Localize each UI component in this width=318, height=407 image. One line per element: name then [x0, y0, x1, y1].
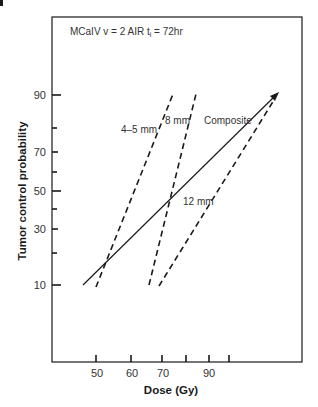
- series-4-5mm-label: 4–5 mm: [121, 124, 157, 135]
- y-tick-50: 50: [34, 185, 46, 197]
- y-axis-ticks: [52, 95, 61, 285]
- x-axis-tick-labels: 50 60 70 90: [91, 367, 215, 379]
- x-tick-70: 70: [157, 367, 169, 379]
- y-axis-title: Tumor control probability: [16, 121, 28, 261]
- y-tick-30: 30: [34, 223, 46, 235]
- series-8mm-label: 8 mm: [165, 115, 190, 126]
- series-12mm-label: 12 mm: [183, 196, 214, 207]
- x-axis-title: Dose (Gy): [144, 384, 198, 396]
- x-tick-60: 60: [126, 367, 138, 379]
- x-tick-50: 50: [91, 367, 103, 379]
- y-tick-90: 90: [34, 89, 46, 101]
- x-tick-90: 90: [203, 367, 215, 379]
- series-4-5mm-line: [96, 94, 173, 287]
- chart-header: MCaIV v = 2 AIR ti = 72hr: [70, 26, 183, 38]
- y-axis-tick-labels: 90 70 50 30 10: [34, 89, 46, 291]
- x-axis-ticks: [96, 355, 229, 362]
- y-tick-70: 70: [34, 146, 46, 158]
- plot-frame: [52, 17, 302, 362]
- y-tick-10: 10: [34, 279, 46, 291]
- corner-mark: [0, 0, 3, 6]
- series-composite-label: Composite: [204, 115, 252, 126]
- tcp-dose-chart: MCaIV v = 2 AIR ti = 72hr 90 70 50 30 10…: [0, 0, 318, 407]
